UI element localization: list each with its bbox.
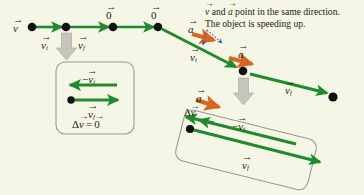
callout-arrows-group bbox=[57, 33, 254, 105]
acceleration-arrow-left bbox=[192, 34, 214, 40]
figure-graphics bbox=[0, 0, 364, 195]
particle-dot-2 bbox=[62, 23, 71, 32]
velocity-arrow-5 bbox=[250, 74, 327, 93]
caption-line-2: The object is speeding up. bbox=[205, 18, 305, 30]
pointer-to-acceleration-icon bbox=[207, 30, 222, 43]
gray-callout-arrow-left bbox=[57, 33, 77, 60]
particle-dot-3 bbox=[109, 23, 118, 32]
left-inset-border bbox=[56, 62, 134, 134]
diagonal-track-group bbox=[162, 29, 338, 102]
particle-dot-1 bbox=[28, 23, 37, 32]
particle-dot-6 bbox=[328, 92, 337, 101]
right-inset-delta-v-arrow bbox=[186, 117, 214, 123]
caption-line-1-rest: point in the same direction. bbox=[233, 6, 340, 17]
caption-a-symbol: →a bbox=[228, 6, 233, 18]
top-track-group bbox=[28, 23, 163, 32]
particle-dot-4 bbox=[154, 23, 163, 32]
left-inset-origin-dot bbox=[67, 96, 74, 103]
right-inset-box bbox=[174, 108, 319, 191]
right-inset-origin-dot bbox=[186, 125, 194, 133]
particle-dot-5 bbox=[239, 67, 248, 76]
gray-callout-arrow-right bbox=[234, 78, 254, 105]
left-inset-box bbox=[56, 62, 134, 134]
caption-line-1: →v and →a point in the same direction. bbox=[205, 6, 340, 18]
right-inset-acceleration-arrow bbox=[196, 100, 219, 107]
right-inset-border bbox=[174, 108, 319, 191]
physics-figure: →v and →a point in the same direction. T… bbox=[0, 0, 364, 195]
acceleration-arrow-right bbox=[229, 58, 252, 64]
right-inset-vectors bbox=[186, 100, 320, 162]
caption-v-symbol: →v bbox=[205, 6, 209, 18]
